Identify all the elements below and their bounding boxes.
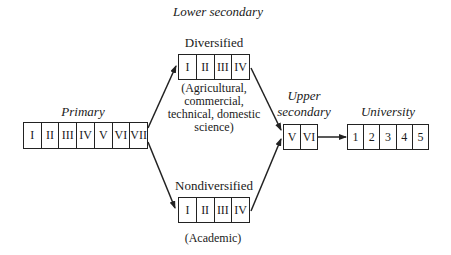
year-cell: 4 [397, 125, 413, 149]
primary-grades: I II III IV V VI VII [23, 122, 148, 149]
grade-cell: II [197, 198, 215, 222]
grade-cell: V [95, 123, 113, 148]
grade-cell: V [284, 125, 301, 149]
upper-secondary-label-line2: secondary [277, 105, 330, 119]
primary-label: Primary [61, 105, 104, 119]
year-cell: 2 [364, 125, 380, 149]
year-cell: 1 [348, 125, 364, 149]
grade-cell: III [215, 55, 233, 79]
nondiversified-label: Nondiversified [175, 179, 253, 193]
grade-cell: VI [301, 125, 317, 149]
upper-secondary-grades: V VI [283, 124, 318, 150]
grade-cell: IV [77, 123, 95, 148]
year-cell: 3 [380, 125, 396, 149]
grade-cell: I [179, 55, 197, 79]
university-label: University [361, 105, 415, 119]
note-line: science) [168, 121, 261, 134]
nondiversified-note: (Academic) [185, 232, 242, 245]
grade-cell: IV [232, 198, 249, 222]
arrow-nondiversified-to-upper [251, 139, 281, 211]
grade-cell: III [215, 198, 233, 222]
grade-cell: II [197, 55, 215, 79]
nondiversified-grades: I II III IV [178, 197, 250, 223]
diversified-grades: I II III IV [178, 54, 250, 80]
university-years: 1 2 3 4 5 [347, 124, 429, 150]
lower-secondary-title: Lower secondary [173, 5, 263, 19]
grade-cell: VI [113, 123, 131, 148]
grade-cell: I [24, 123, 42, 148]
diversified-label: Diversified [185, 36, 243, 50]
grade-cell: VII [130, 123, 147, 148]
upper-secondary-label-line1: Upper [287, 89, 320, 103]
grade-cell: III [59, 123, 77, 148]
year-cell: 5 [413, 125, 428, 149]
diversified-note: (Agricultural, commercial, technical, do… [168, 82, 261, 134]
grade-cell: II [42, 123, 60, 148]
arrow-primary-to-nondiversified [148, 142, 175, 208]
grade-cell: IV [232, 55, 249, 79]
grade-cell: I [179, 198, 197, 222]
